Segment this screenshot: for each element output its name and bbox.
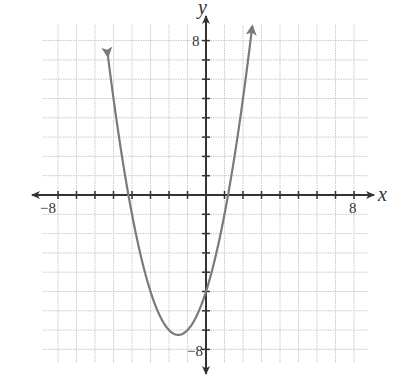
x-max-label: 8 bbox=[349, 200, 357, 216]
y-max-label: 8 bbox=[192, 33, 200, 49]
x-axis-label: x bbox=[377, 183, 387, 205]
x-min-label: −8 bbox=[40, 200, 56, 216]
y-axis-label: y bbox=[196, 0, 207, 19]
coordinate-plane: x y −8 8 8 −8 bbox=[0, 0, 408, 392]
y-min-label: −8 bbox=[187, 343, 203, 359]
parabola-curve bbox=[108, 26, 252, 335]
